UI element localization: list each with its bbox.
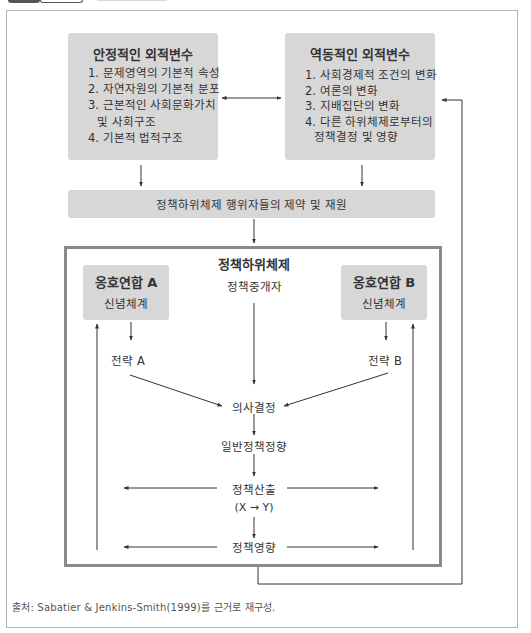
coalition-a-title: 옹호연합 A [95, 272, 158, 291]
coalition-b-title: 옹호연합 B [353, 272, 415, 291]
policy-impact-label: 정책영향 [232, 539, 276, 555]
strategy-a-label: 전략 A [111, 352, 145, 368]
decision-label: 의사결정 [232, 399, 276, 415]
policy-broker-label: 정책중개자 [227, 278, 282, 294]
policy-output-label: 정책산출 [232, 481, 276, 497]
coalition-a-belief: 신념체계 [104, 295, 148, 311]
subsystem-title: 정책하위체제 [218, 254, 290, 273]
general-orientation-label: 일반정책정향 [221, 438, 287, 454]
strategy-b-label: 전략 B [368, 352, 402, 368]
feedback-loop-arrow [258, 100, 462, 584]
arrow-strategy-b-to-decision [284, 373, 388, 406]
coalition-b-belief: 신념체계 [362, 295, 406, 311]
policy-output-formula: (X → Y) [234, 501, 273, 514]
arrow-strategy-a-to-decision [130, 375, 222, 406]
figure-source-caption: 출처: Sabatier & Jenkins-Smith(1999)를 근거로 … [12, 599, 276, 614]
